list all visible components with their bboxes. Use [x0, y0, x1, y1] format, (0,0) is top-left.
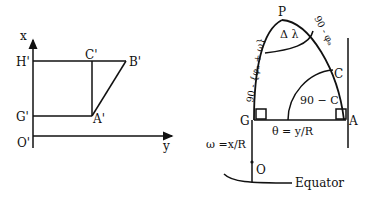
- point-c-label: C: [334, 67, 343, 81]
- equator-label: Equator: [295, 176, 344, 190]
- point-g-label: G': [16, 110, 29, 124]
- diagram-canvas: x y O' H' G' C' B' A' P Δ λ 90 - {φₐ + ω…: [0, 0, 372, 201]
- point-o-label: O: [256, 163, 266, 177]
- right-angle-g: [256, 109, 266, 119]
- left-diagram: x y O' H' G' C' B' A': [16, 29, 172, 153]
- point-a-label: A': [92, 112, 105, 126]
- right-diagram: P Δ λ 90 - {φₐ + ω} 90 - φₐ C 90 − C G A…: [206, 5, 358, 190]
- line-a-b: [92, 61, 126, 116]
- left-arc-label: 90 - {φₐ + ω}: [244, 37, 266, 103]
- theta-label: θ = y/R: [272, 125, 314, 138]
- point-h-label: H': [16, 55, 30, 69]
- origin-label: O': [17, 136, 30, 150]
- point-g-label: G: [240, 114, 250, 128]
- point-b-label: B': [129, 55, 141, 69]
- omega-label: ω =x/R: [206, 138, 247, 151]
- pole-label: P: [278, 5, 286, 19]
- right-arc-label: 90 - φₐ: [312, 14, 337, 47]
- delta-lambda-label: Δ λ: [280, 28, 298, 41]
- x-axis-label: x: [20, 29, 27, 43]
- y-axis-label: y: [162, 139, 170, 153]
- point-o-dot: [250, 160, 253, 163]
- angle-label: 90 − C: [300, 94, 339, 107]
- point-a-label: A: [348, 114, 358, 128]
- point-c-label: C': [85, 48, 97, 62]
